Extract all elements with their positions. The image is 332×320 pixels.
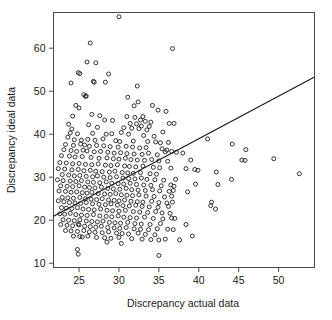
y-tick-label: 60 xyxy=(34,42,46,54)
y-tick-label: 40 xyxy=(34,128,46,140)
y-axis-title: Discrepancy ideal data xyxy=(5,87,17,193)
x-tick-label: 25 xyxy=(73,274,85,286)
x-tick-label: 45 xyxy=(233,274,245,286)
x-tick-label: 40 xyxy=(193,274,205,286)
x-tick-label: 35 xyxy=(153,274,165,286)
y-tick-label: 50 xyxy=(34,85,46,97)
y-tick-label: 30 xyxy=(34,171,46,183)
x-tick-label: 30 xyxy=(113,274,125,286)
plot-canvas: 253035404550 102030405060 Discrepancy ac… xyxy=(0,0,332,320)
y-tick-label: 20 xyxy=(34,214,46,226)
y-tick-label: 10 xyxy=(34,257,46,269)
x-tick-label: 50 xyxy=(273,274,285,286)
x-axis-title: Discrepancy actual data xyxy=(127,297,239,309)
scatter-plot-figure: 253035404550 102030405060 Discrepancy ac… xyxy=(0,0,332,320)
